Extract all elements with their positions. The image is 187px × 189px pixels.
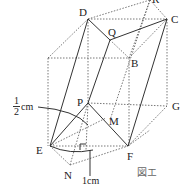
point-f-label: F	[127, 151, 133, 162]
figure-lines	[0, 0, 187, 189]
half-cm-numerator: 1	[14, 96, 19, 106]
point-b-label: B	[131, 58, 138, 69]
point-e-label: E	[36, 145, 43, 156]
point-q-label: Q	[108, 27, 116, 38]
point-p-label: P	[77, 97, 83, 108]
point-r-label: R	[152, 0, 159, 5]
point-g-label: G	[172, 101, 180, 112]
point-m-label: M	[109, 116, 119, 127]
geometry-figure: D C R Q B P M E F G N 1 2 cm 1cm 図エ	[0, 0, 187, 189]
half-cm-unit: cm	[21, 102, 33, 112]
half-cm-denominator: 2	[14, 107, 19, 117]
point-n-label: N	[64, 170, 72, 181]
point-d-label: D	[79, 7, 87, 18]
point-c-label: C	[171, 14, 178, 25]
one-cm-label: 1cm	[82, 176, 99, 186]
figure-caption: 図エ	[137, 168, 157, 178]
